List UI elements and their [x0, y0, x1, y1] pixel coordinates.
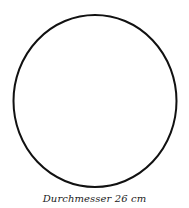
circle-outline [0, 0, 189, 208]
diagram-canvas: Durchmesser 26 cm [0, 0, 189, 208]
diameter-caption: Durchmesser 26 cm [0, 193, 189, 204]
